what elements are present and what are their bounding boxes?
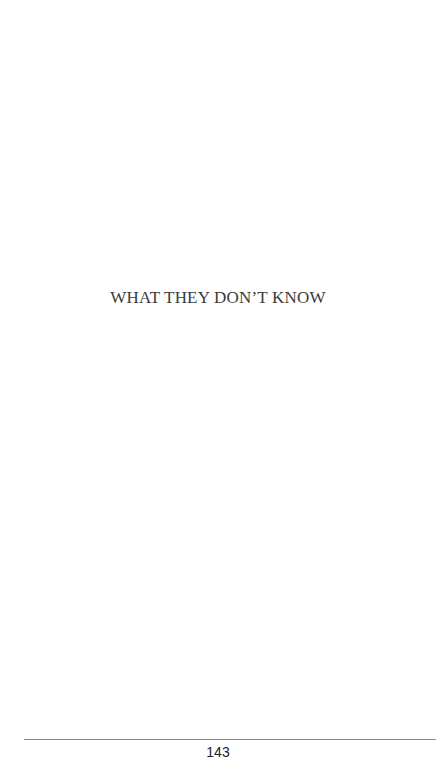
footer-divider xyxy=(24,739,436,740)
page-number: 143 xyxy=(0,744,436,760)
section-title: WHAT THEY DON’T KNOW xyxy=(0,288,436,308)
